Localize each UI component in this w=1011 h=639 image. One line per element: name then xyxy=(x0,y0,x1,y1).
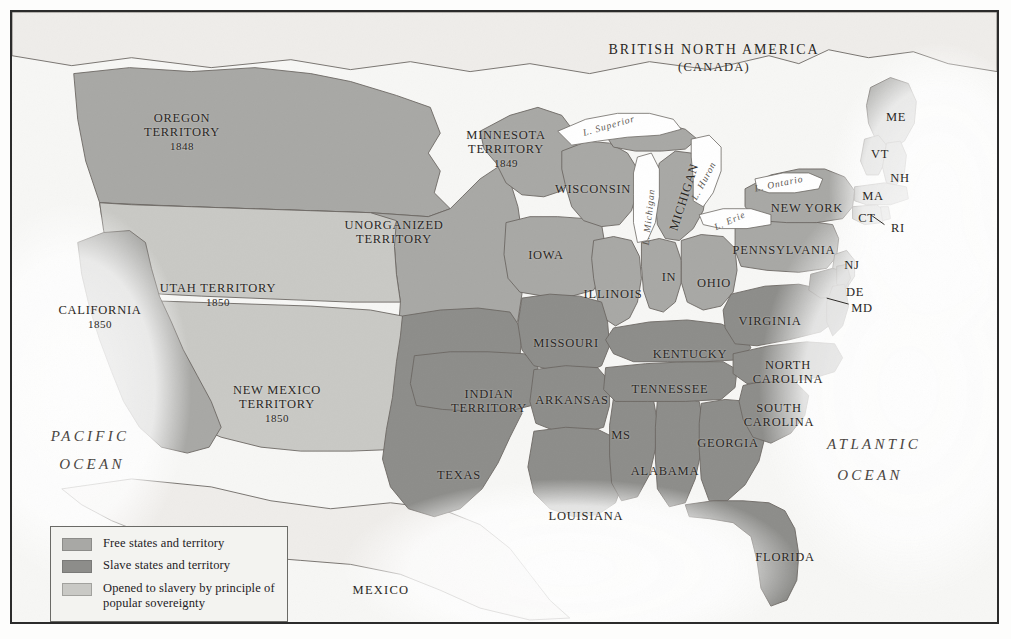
region-iowa xyxy=(504,217,606,296)
region-indian-territory xyxy=(410,352,537,412)
legend-item-free: Free states and territory xyxy=(62,536,277,551)
legend-swatch-free xyxy=(62,538,92,551)
region-missouri xyxy=(518,294,610,373)
legend-label-popular-sovereignty: Opened to slavery by principle of popula… xyxy=(103,581,277,612)
legend-swatch-slave xyxy=(62,560,92,573)
map-frame: CALIFORNIA1850OREGON TERRITORY1848MINNES… xyxy=(10,10,999,624)
region-tennessee xyxy=(604,362,737,402)
region-arkansas xyxy=(530,366,610,434)
legend-swatch-popular-sovereignty xyxy=(62,583,92,596)
map-legend: Free states and territory Slave states a… xyxy=(50,526,288,622)
map-canvas: CALIFORNIA1850OREGON TERRITORY1848MINNES… xyxy=(12,12,997,622)
map-page: CALIFORNIA1850OREGON TERRITORY1848MINNES… xyxy=(0,0,1011,639)
legend-label-slave: Slave states and territory xyxy=(103,558,230,573)
water-lake-erie xyxy=(699,209,771,229)
legend-item-popular-sovereignty: Opened to slavery by principle of popula… xyxy=(62,581,277,612)
region-indiana xyxy=(641,239,681,313)
legend-label-free: Free states and territory xyxy=(103,536,224,551)
legend-item-slave: Slave states and territory xyxy=(62,558,277,573)
